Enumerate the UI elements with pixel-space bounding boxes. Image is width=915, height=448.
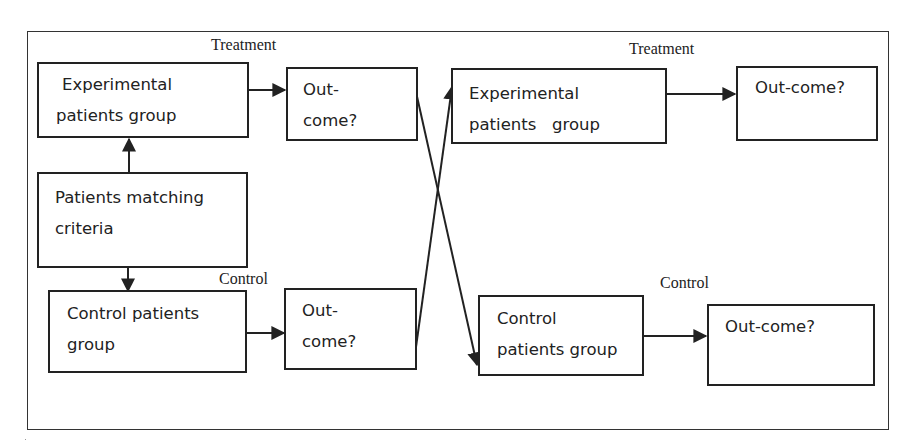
treatment-label-right: Treatment — [629, 40, 694, 58]
outcome-box-3: Out-come? — [736, 66, 878, 141]
node-line: patients group — [469, 109, 665, 140]
node-line: Experimental — [59, 69, 247, 100]
node-line: Out-come? — [725, 311, 873, 342]
outcome-box-4: Out-come? — [707, 304, 875, 386]
experimental-group-box-2: Experimental patients group — [451, 68, 667, 144]
node-line: Control — [497, 303, 642, 334]
stray-dot — [25, 439, 26, 440]
node-line: Experimental — [469, 78, 665, 109]
experimental-group-box-1: Experimental patients group — [37, 62, 249, 138]
control-label-left: Control — [219, 270, 268, 288]
node-line: criteria — [55, 213, 246, 244]
outcome-box-2: Out- come? — [284, 288, 417, 370]
patients-criteria-box: Patients matching criteria — [37, 172, 248, 268]
control-group-box-2: Control patients group — [478, 295, 644, 376]
node-line: come? — [303, 105, 416, 136]
node-line: Out-come? — [755, 72, 876, 103]
node-line: patients group — [56, 100, 247, 131]
node-line: Out- — [303, 74, 416, 105]
node-line: Control patients — [67, 298, 245, 329]
control-label-right: Control — [660, 274, 709, 292]
node-line: group — [67, 329, 245, 360]
node-line: Out- — [302, 295, 415, 326]
node-line: come? — [302, 326, 415, 357]
node-line: Patients matching — [55, 182, 246, 213]
control-group-box-1: Control patients group — [48, 290, 247, 373]
node-line: patients group — [497, 334, 642, 365]
treatment-label-left: Treatment — [211, 36, 276, 54]
outcome-box-1: Out- come? — [286, 67, 418, 141]
